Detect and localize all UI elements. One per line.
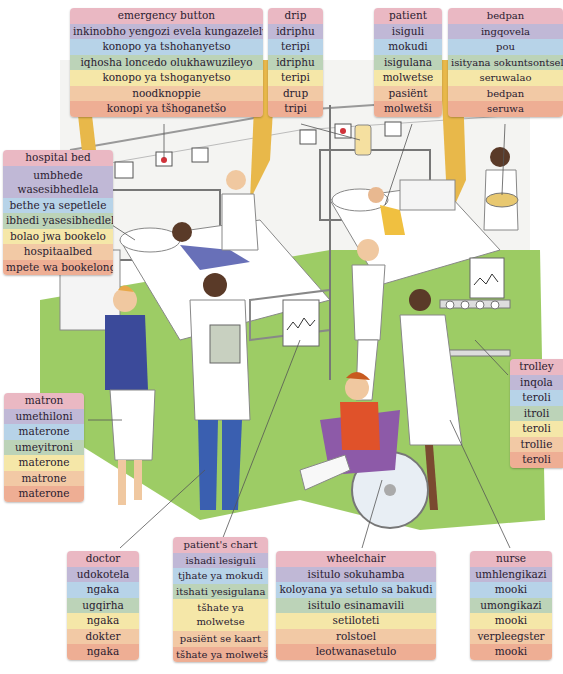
label-doctor: doctor udokotela ngaka ugqirha ngaka dok… [67, 551, 139, 660]
label-sotho: bethe ya sepetlele [3, 198, 113, 214]
label-bedpan: bedpan ingqovela pou isityana sokuntsont… [448, 8, 563, 117]
bedpan-icon [486, 193, 518, 207]
label-pedi: konopi ya tšhoganetšo [70, 101, 263, 117]
label-xhosa: idriphu [268, 55, 323, 71]
label-afrikaans: trollie [510, 437, 563, 453]
label-xhosa: umongikazi [470, 598, 552, 614]
label-zulu: isiguli [374, 24, 442, 40]
label-xhosa: isityana sokuntsontsela [448, 55, 563, 71]
label-trolley: trolley inqola teroli itroli teroli trol… [510, 359, 563, 468]
label-english: patient [374, 8, 442, 24]
label-afrikaans: matrone [4, 471, 84, 487]
label-afrikaans: rolstoel [276, 629, 436, 645]
label-english: doctor [67, 551, 139, 567]
label-zulu: udokotela [67, 567, 139, 583]
label-patients-chart: patient's chart ishadi lesiguli tjhate y… [173, 537, 268, 662]
label-sotho: konopo ya tshohanyetso [70, 39, 263, 55]
label-english: bedpan [448, 8, 563, 24]
label-english: nurse [470, 551, 552, 567]
label-tswana: ngaka [67, 613, 139, 629]
label-english: drip [268, 8, 323, 24]
label-zulu: umbhede wasesibhedlela [3, 166, 113, 198]
label-pedi: molwetši [374, 101, 442, 117]
label-xhosa: umeyitroni [4, 440, 84, 456]
label-wheelchair: wheelchair isitulo sokuhamba koloyana ya… [276, 551, 436, 660]
label-zulu: ingqovela [448, 24, 563, 40]
label-sotho: mooki [470, 582, 552, 598]
label-zulu: inkinobho yengozi evela kungazelelwe [70, 24, 263, 40]
label-pedi: leotwanasetulo [276, 644, 436, 660]
label-patient: patient isiguli mokudi isigulana molwets… [374, 8, 442, 117]
label-tswana: bolao jwa bookelo [3, 229, 113, 245]
label-tswana: tšhate ya molwetse [173, 599, 268, 631]
label-tswana: setiloteti [276, 613, 436, 629]
label-tswana: mooki [470, 613, 552, 629]
label-afrikaans: pasiënt se kaart [173, 631, 268, 647]
label-afrikaans: bedpan [448, 86, 563, 102]
label-emergency-button: emergency button inkinobho yengozi evela… [70, 8, 263, 117]
label-sotho: materone [4, 424, 84, 440]
label-xhosa: isitulo esinamavili [276, 598, 436, 614]
label-zulu: isitulo sokuhamba [276, 567, 436, 583]
label-tswana: seruwalao [448, 70, 563, 86]
label-zulu: inqola [510, 375, 563, 391]
label-tswana: konopo ya tshoganyetso [70, 70, 263, 86]
label-afrikaans: verpleegster [470, 629, 552, 645]
label-afrikaans: hospitaalbed [3, 244, 113, 260]
label-sotho: teripi [268, 39, 323, 55]
wall-socket-icon [115, 162, 133, 178]
label-pedi: mpete wa bookelong [3, 260, 113, 276]
label-sotho: pou [448, 39, 563, 55]
label-pedi: seruwa [448, 101, 563, 117]
label-tswana: teripi [268, 70, 323, 86]
label-xhosa: isigulana [374, 55, 442, 71]
label-english: emergency button [70, 8, 263, 24]
label-english: matron [4, 393, 84, 409]
label-pedi: tripi [268, 101, 323, 117]
label-zulu: umhlengikazi [470, 567, 552, 583]
label-english: trolley [510, 359, 563, 375]
label-sotho: koloyana ya setulo sa bakudi [276, 582, 436, 598]
label-afrikaans: drup [268, 86, 323, 102]
label-afrikaans: noodknoppie [70, 86, 263, 102]
label-xhosa: itroli [510, 406, 563, 422]
label-nurse: nurse umhlengikazi mooki umongikazi mook… [470, 551, 552, 660]
label-xhosa: itshati yesigulana [173, 584, 268, 600]
label-english: patient's chart [173, 537, 268, 553]
label-xhosa: ugqirha [67, 598, 139, 614]
label-english: hospital bed [3, 150, 113, 166]
label-pedi: mooki [470, 644, 552, 660]
label-afrikaans: pasiënt [374, 86, 442, 102]
label-zulu: idriphu [268, 24, 323, 40]
label-sotho: ngaka [67, 582, 139, 598]
label-tswana: materone [4, 455, 84, 471]
label-xhosa: ibhedi yasesibhedlele [3, 213, 113, 229]
label-tswana: teroli [510, 421, 563, 437]
label-xhosa: iqhosha loncedo olukhawuzileyo [70, 55, 263, 71]
patients-chart-right [470, 258, 504, 298]
label-drip: drip idriphu teripi idriphu teripi drup … [268, 8, 323, 117]
label-pedi: materone [4, 486, 84, 502]
clipboard [210, 325, 240, 363]
label-tswana: molwetse [374, 70, 442, 86]
drip-bag [355, 125, 371, 155]
label-sotho: tjhate ya mokudi [173, 568, 268, 584]
label-zulu: umethiloni [4, 409, 84, 425]
label-sotho: teroli [510, 390, 563, 406]
label-pedi: teroli [510, 452, 563, 468]
label-pedi: tšhate ya molwetši [173, 647, 268, 663]
label-afrikaans: dokter [67, 629, 139, 645]
label-zulu: ishadi lesiguli [173, 553, 268, 569]
label-sotho: mokudi [374, 39, 442, 55]
label-english: wheelchair [276, 551, 436, 567]
label-matron: matron umethiloni materone umeyitroni ma… [4, 393, 84, 502]
label-pedi: ngaka [67, 644, 139, 660]
label-hospital-bed: hospital bed umbhede wasesibhedlela beth… [3, 150, 113, 275]
